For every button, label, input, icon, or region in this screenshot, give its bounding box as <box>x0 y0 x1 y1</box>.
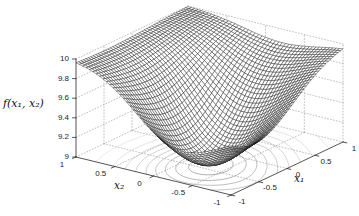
x2-tick-label: 0.5 <box>88 170 114 178</box>
x2-tick-label: 0 <box>127 180 153 188</box>
z-axis-title: f(x₁, x₂) <box>3 97 44 110</box>
x1-tick-label: -1 <box>229 198 255 206</box>
x2-tick-label: -1 <box>204 199 230 207</box>
z-tick-label: 9.4 <box>47 114 69 122</box>
figure-3d-surface-plot: f(x₁, x₂) x₂ x₁ 99.29.49.69.81010.50-0.5… <box>0 0 359 216</box>
x2-tick-label: 1 <box>49 161 75 169</box>
x2-tick-label: -0.5 <box>165 189 191 197</box>
z-tick-label: 9.2 <box>47 133 69 141</box>
z-tick-label: 9.8 <box>47 75 69 83</box>
x1-tick-label: -0.5 <box>257 184 283 192</box>
x1-tick-label: 0 <box>285 171 311 179</box>
x2-axis-title: x₂ <box>114 179 124 191</box>
mesh-surface-canvas <box>0 0 359 216</box>
z-tick-label: 9.6 <box>47 94 69 102</box>
z-tick-label: 10 <box>47 55 69 63</box>
x1-tick-label: 1 <box>341 145 359 153</box>
x1-tick-label: 0.5 <box>313 158 339 166</box>
